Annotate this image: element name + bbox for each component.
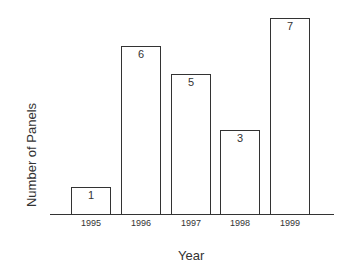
bar-value-label: 5 — [172, 76, 210, 88]
bar-value-label: 7 — [271, 20, 309, 32]
x-axis-line — [50, 214, 334, 215]
y-axis-label: Number of Panels — [24, 103, 39, 207]
x-axis-label: Year — [178, 248, 204, 263]
x-tick-label: 1997 — [166, 218, 216, 228]
bar-1998: 3 — [220, 130, 260, 215]
x-tick-label: 1998 — [215, 218, 265, 228]
bar-1997: 5 — [171, 74, 211, 215]
bar-chart: Number of Panels 16537 19951996199719981… — [0, 0, 349, 275]
bar-1999: 7 — [270, 18, 310, 215]
x-tick-label: 1996 — [116, 218, 166, 228]
x-tick-label: 1999 — [265, 218, 315, 228]
x-tick-label: 1995 — [66, 218, 116, 228]
bar-1995: 1 — [71, 187, 111, 215]
bar-1996: 6 — [121, 46, 161, 215]
bar-value-label: 3 — [221, 132, 259, 144]
bar-value-label: 6 — [122, 48, 160, 60]
bar-value-label: 1 — [72, 189, 110, 201]
